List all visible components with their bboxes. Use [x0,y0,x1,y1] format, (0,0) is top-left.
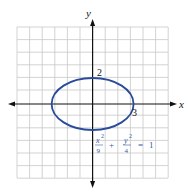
x-axis-label: x [178,98,184,110]
x-axis-left-arrow-icon [8,102,15,107]
x-intercept-label: 3 [132,107,137,118]
y-axis-top-arrow-icon [90,19,95,26]
ellipse-diagram: x y 2 3 x 2 9 + y 2 4 = 1 [0,0,195,192]
eq-equals: = [138,140,143,150]
y-intercept-label: 2 [97,67,102,78]
x-axis-right-arrow-icon [170,102,177,107]
eq-y-denominator: 4 [125,147,129,155]
eq-rhs: 1 [149,140,154,150]
eq-x-denominator: 9 [97,147,101,155]
eq-plus: + [109,140,114,150]
ellipse-equation: x 2 9 + y 2 4 = 1 [95,133,154,155]
y-axis-bottom-arrow-icon [90,181,95,188]
eq-x-exponent: 2 [101,133,104,139]
eq-x-numerator: x [95,136,100,145]
eq-y-exponent: 2 [129,133,132,139]
y-axis-label: y [85,7,91,19]
eq-y-numerator: y [123,136,128,145]
